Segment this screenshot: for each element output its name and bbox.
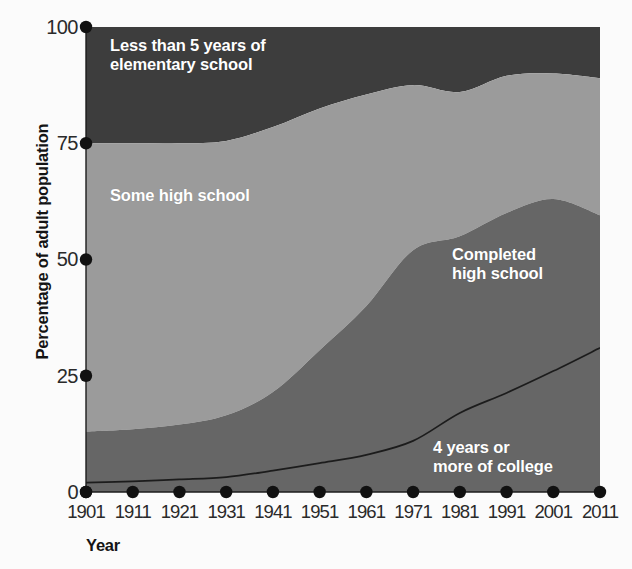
y-tick-dot-100 — [80, 21, 92, 33]
x-axis-tick-labels: 1901191119211931194119511961197119811991… — [0, 503, 632, 533]
y-tick-100: 100 — [30, 17, 78, 37]
x-tick-label-1911: 1911 — [115, 503, 151, 522]
x-tick-label-1921: 1921 — [161, 503, 199, 522]
y-tick-dot-25 — [80, 370, 92, 382]
y-tick-dot-75 — [80, 137, 92, 149]
band-label-less-than-5-years-elementary: Less than 5 years of elementary school — [110, 36, 266, 74]
x-tick-dot-1911 — [127, 486, 139, 498]
x-tick-dot-1901 — [80, 486, 92, 498]
x-axis-label: Year — [86, 536, 120, 555]
x-tick-dot-1961 — [360, 486, 372, 498]
x-tick-label-1901: 1901 — [67, 503, 105, 522]
y-tick-0: 0 — [30, 482, 78, 502]
y-tick-75: 75 — [30, 133, 78, 153]
band-label-some-high-school: Some high school — [110, 186, 250, 205]
x-tick-label-1931: 1931 — [207, 503, 245, 522]
band-label-four-years-or-more-college: 4 years or more of college — [433, 438, 553, 476]
x-tick-dot-1951 — [313, 486, 325, 498]
plot-area — [0, 0, 632, 569]
x-tick-label-1971: 1971 — [394, 503, 432, 522]
x-tick-label-2011: 2011 — [582, 503, 618, 522]
x-tick-dot-1931 — [220, 486, 232, 498]
x-tick-dot-1981 — [454, 486, 466, 498]
y-tick-25: 25 — [30, 366, 78, 386]
x-tick-label-1941: 1941 — [254, 503, 292, 522]
x-tick-dot-1941 — [267, 486, 279, 498]
x-tick-label-2001: 2001 — [534, 503, 572, 522]
y-tick-dot-50 — [80, 253, 92, 265]
x-tick-dot-2011 — [594, 486, 606, 498]
y-tick-50: 50 — [30, 249, 78, 269]
x-tick-dot-1991 — [500, 486, 512, 498]
educational-attainment-area-chart: Percentage of adult population 100 75 50… — [0, 0, 632, 569]
x-tick-label-1961: 1961 — [348, 503, 386, 522]
x-tick-label-1951: 1951 — [301, 503, 339, 522]
x-tick-label-1991: 1991 — [488, 503, 526, 522]
x-tick-dot-2001 — [547, 486, 559, 498]
x-tick-dot-1971 — [407, 486, 419, 498]
x-tick-label-1981: 1981 — [441, 503, 479, 522]
x-tick-dot-1921 — [173, 486, 185, 498]
band-label-completed-high-school: Completed high school — [452, 245, 543, 283]
y-axis-tick-labels: 100 75 50 25 0 — [24, 0, 78, 569]
